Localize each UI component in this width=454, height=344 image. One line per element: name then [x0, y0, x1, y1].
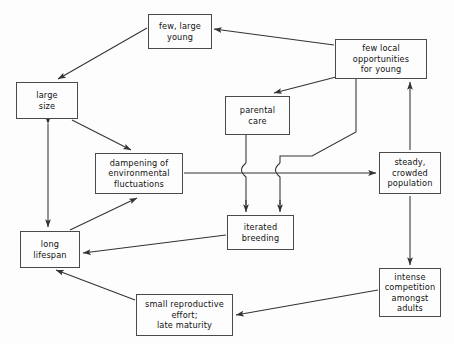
node-iterated-breeding[interactable]: iterated breeding — [227, 215, 294, 250]
diagram-canvas: few, large young few local opportunities… — [0, 0, 454, 344]
node-long-lifespan[interactable]: long lifespan — [20, 231, 80, 268]
edge-large-size-to-dampening — [72, 120, 131, 150]
node-few-local-opportunities[interactable]: few local opportunities for young — [335, 39, 427, 79]
edge-few-local-opps-to-iterated-breeding — [280, 79, 356, 163]
node-dampening-of-environmental-fluctuations[interactable]: dampening of environmental fluctuations — [95, 153, 183, 194]
edge-few-local-opps-to-parental-care — [274, 77, 336, 93]
node-parental-care[interactable]: parental care — [225, 96, 290, 135]
node-intense-competition-amongst-adults[interactable]: intense competition amongst adults — [379, 268, 441, 317]
node-label: small reproductive effort; late maturity — [137, 299, 232, 331]
node-small-reproductive-effort[interactable]: small reproductive effort; late maturity — [136, 294, 233, 336]
wire-hop-left — [242, 163, 247, 205]
edge-few-local-opps-to-few-large-young — [214, 29, 334, 45]
node-label: iterated breeding — [228, 222, 293, 243]
edge-few-large-young-to-large-size — [58, 28, 147, 79]
node-few-large-young[interactable]: few, large young — [148, 14, 212, 49]
node-steady-crowded-population[interactable]: steady, crowded population — [379, 152, 441, 194]
edge-iterated-breeding-to-long-lifespan — [83, 235, 226, 253]
node-label: intense competition amongst adults — [380, 272, 440, 314]
node-label: dampening of environmental fluctuations — [96, 158, 182, 190]
node-label: few local opportunities for young — [336, 43, 426, 75]
node-label: parental care — [226, 105, 289, 126]
node-label: few, large young — [149, 21, 211, 42]
node-label: long lifespan — [21, 239, 79, 260]
node-label: large size — [17, 90, 77, 111]
wire-hop-right — [276, 163, 281, 205]
edge-long-lifespan-to-dampening — [70, 198, 137, 230]
node-large-size[interactable]: large size — [16, 82, 78, 119]
edge-intense-comp-to-small-repro — [236, 290, 378, 315]
node-label: steady, crowded population — [380, 157, 440, 189]
edge-small-repro-to-long-lifespan — [56, 270, 135, 300]
